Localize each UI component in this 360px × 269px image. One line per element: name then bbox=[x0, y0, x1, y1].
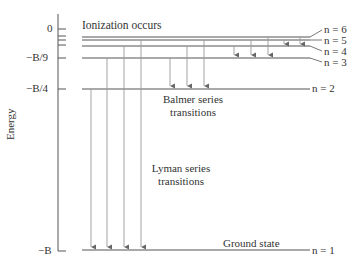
energy-level-diagram bbox=[0, 0, 360, 269]
lyman-label-line1: Lyman series bbox=[144, 162, 218, 175]
level-label-n2: n = 2 bbox=[312, 83, 335, 94]
ionization-label: Ionization occurs bbox=[82, 20, 162, 32]
label-leaders bbox=[310, 30, 322, 62]
tick-label-zero: 0 bbox=[47, 23, 53, 34]
ground-state-label: Ground state bbox=[223, 238, 280, 249]
balmer-label: Balmer series transitions bbox=[156, 93, 230, 119]
tick-label-b: −B bbox=[38, 245, 52, 256]
lyman-label: Lyman series transitions bbox=[144, 162, 218, 188]
energy-axis bbox=[58, 14, 66, 251]
tick-label-b4: −B/4 bbox=[26, 83, 48, 94]
tick-label-b9: −B/9 bbox=[26, 52, 48, 63]
level-label-n3: n = 3 bbox=[324, 57, 347, 68]
level-label-n1: n = 1 bbox=[312, 245, 335, 256]
energy-levels bbox=[82, 37, 310, 250]
balmer-label-line1: Balmer series bbox=[156, 93, 230, 106]
balmer-arrows bbox=[170, 40, 204, 86]
balmer-label-line2: transitions bbox=[156, 106, 230, 119]
lyman-label-line2: transitions bbox=[144, 175, 218, 188]
lyman-arrows bbox=[91, 40, 141, 247]
axis-title-energy: Energy bbox=[4, 108, 16, 140]
